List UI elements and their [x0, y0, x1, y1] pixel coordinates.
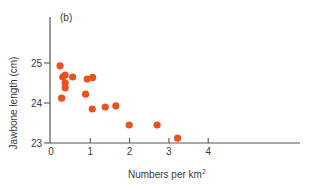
- axes: 23242501234: [31, 17, 300, 157]
- x-tick-label: 0: [48, 146, 54, 157]
- data-point: [69, 73, 76, 80]
- data-point: [62, 84, 69, 91]
- scatter-chart: 23242501234 (b) Jawbone length (cm) Numb…: [0, 0, 313, 189]
- data-point: [62, 71, 69, 78]
- data-point: [102, 103, 109, 110]
- x-tick-label: 2: [127, 146, 133, 157]
- y-tick-label: 25: [31, 58, 43, 69]
- data-point: [56, 62, 63, 69]
- data-point: [82, 91, 89, 98]
- data-point: [58, 95, 65, 102]
- y-axis-label: Jawbone length (cm): [8, 57, 19, 150]
- x-tick-label: 1: [88, 146, 94, 157]
- data-point: [89, 74, 96, 81]
- panel-label: (b): [60, 12, 72, 23]
- data-points: [56, 62, 181, 142]
- data-point: [112, 102, 119, 109]
- x-axis-label: Numbers per km2: [128, 168, 206, 180]
- data-point: [89, 105, 96, 112]
- data-point: [126, 121, 133, 128]
- data-point: [154, 121, 161, 128]
- y-tick-label: 23: [31, 138, 43, 149]
- y-tick-label: 24: [31, 98, 43, 109]
- data-point: [174, 135, 181, 142]
- x-tick-label: 4: [205, 146, 211, 157]
- x-tick-label: 3: [166, 146, 172, 157]
